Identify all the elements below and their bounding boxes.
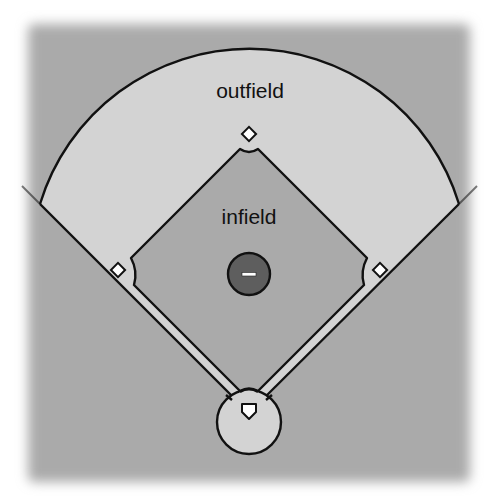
pitching-rubber	[242, 273, 256, 277]
infield-label: infield	[222, 205, 277, 228]
outfield-label: outfield	[216, 79, 284, 102]
baseball-field-diagram: outfield infield	[0, 0, 495, 502]
